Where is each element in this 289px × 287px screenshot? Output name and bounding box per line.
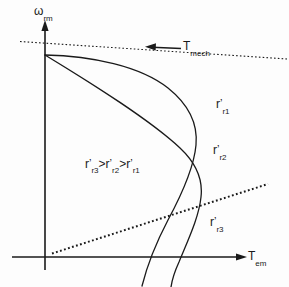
curve-label-rr2-subscript: r2 xyxy=(219,153,226,162)
torque-speed-diagram xyxy=(0,0,289,287)
curve-label-rr3: r’r3 xyxy=(210,213,224,232)
y-axis-label-subscript: rm xyxy=(43,14,52,23)
curve-label-rr3-subscript: r3 xyxy=(216,225,223,234)
resistance-inequality-label: r’r3>r’r2>r’r1 xyxy=(85,158,140,173)
curve-label-rr1: r’r1 xyxy=(216,95,230,114)
x-axis-label: Tem xyxy=(248,247,266,266)
curve-label-rr1-subscript: r1 xyxy=(222,107,229,116)
y-axis-label: ωrm xyxy=(34,2,53,21)
inequality-term-2-subscript: r2 xyxy=(112,166,119,175)
t-mech-label: Tmech xyxy=(183,37,210,56)
x-axis-label-subscript: em xyxy=(255,259,266,268)
t-mech-label-subscript: mech xyxy=(190,49,210,58)
inequality-term-1-subscript: r3 xyxy=(91,166,98,175)
inequality-term-2-base: r xyxy=(106,157,110,171)
inequality-operator-1: > xyxy=(99,157,106,171)
y-axis-label-symbol: ω xyxy=(34,4,43,18)
curve-label-rr2: r’r2 xyxy=(213,141,227,160)
inequality-term-3-subscript: r1 xyxy=(133,166,140,175)
